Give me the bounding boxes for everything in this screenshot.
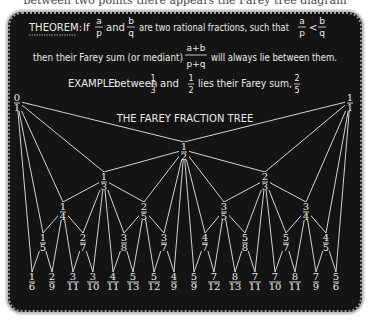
fraction-node: 25 xyxy=(139,201,149,222)
cut-off-caption: between two points there appears the Far… xyxy=(0,0,370,7)
svg-text:1: 1 xyxy=(347,102,353,113)
tree-edge xyxy=(104,180,144,202)
svg-text:9: 9 xyxy=(49,281,55,292)
svg-text:13: 13 xyxy=(127,281,140,292)
theorem-line-2: then their Farey sum (or mediant) a+b p+… xyxy=(33,43,337,69)
fraction-node: 58 xyxy=(240,232,250,253)
svg-text:4: 4 xyxy=(303,211,309,222)
svg-text:7: 7 xyxy=(202,242,208,253)
svg-text:1: 1 xyxy=(188,74,193,83)
svg-text:12: 12 xyxy=(208,281,221,292)
text-rational: are two rational fractions, such that xyxy=(139,22,289,33)
fraction-node: 711 xyxy=(247,271,263,292)
svg-text:1: 1 xyxy=(150,74,155,83)
svg-text:7: 7 xyxy=(80,242,86,253)
fraction-node: 35 xyxy=(219,201,229,222)
theorem-line-1: THEOREM: If a p and b q are two rational… xyxy=(28,16,326,38)
fraction-node: 813 xyxy=(227,271,243,292)
svg-text:5: 5 xyxy=(221,211,227,222)
svg-text:10: 10 xyxy=(269,281,282,292)
fraction-node: 45 xyxy=(321,232,331,253)
chalkboard: THEOREM: If a p and b q are two rational… xyxy=(8,12,362,312)
fraction-two-fifths: 2 5 xyxy=(294,74,300,95)
svg-text:7: 7 xyxy=(283,242,289,253)
example-label: EXAMPLE: xyxy=(68,78,118,89)
svg-text:5: 5 xyxy=(40,242,46,253)
tree-edge xyxy=(104,180,113,272)
fraction-node: 59 xyxy=(189,271,199,292)
mediant-fraction: a+b p+q xyxy=(185,43,207,69)
fraction-node: 29 xyxy=(47,271,57,292)
fraction-node: 311 xyxy=(65,271,81,292)
fraction-node: 47 xyxy=(200,232,210,253)
fraction-node: 15 xyxy=(38,232,48,253)
svg-text:11: 11 xyxy=(107,281,120,292)
fraction-node: 16 xyxy=(27,271,37,292)
tree-edge xyxy=(174,150,184,272)
svg-text:3: 3 xyxy=(150,86,155,95)
fraction-one-half: 1 2 xyxy=(188,74,194,95)
fraction-node: 811 xyxy=(287,271,303,292)
fraction-node: 310 xyxy=(85,271,101,292)
fraction-a-over-p: a p xyxy=(95,16,103,38)
svg-text:13: 13 xyxy=(229,281,242,292)
tree-edge xyxy=(336,101,350,272)
svg-text:<: < xyxy=(309,22,317,33)
svg-text:a: a xyxy=(96,16,102,26)
text-if: If xyxy=(83,22,90,33)
tree-edge xyxy=(17,101,32,272)
svg-text:2: 2 xyxy=(294,74,299,83)
tree-edge xyxy=(265,180,306,202)
tree-edges xyxy=(17,101,350,272)
fraction-node: 14 xyxy=(58,201,68,222)
svg-text:1: 1 xyxy=(14,102,20,113)
farey-diagram: THEOREM: If a p and b q are two rational… xyxy=(8,12,362,312)
fraction-node: 01 xyxy=(12,92,22,113)
tree-edge xyxy=(224,180,265,202)
svg-text:6: 6 xyxy=(29,281,35,292)
svg-text:b: b xyxy=(128,16,134,26)
svg-text:4: 4 xyxy=(60,211,66,222)
svg-text:5: 5 xyxy=(294,86,299,95)
tree-edge xyxy=(63,180,104,202)
fraction-node: 38 xyxy=(119,232,129,253)
tree-edge xyxy=(17,101,43,233)
example-line: EXAMPLE: between 1 3 and 1 2 lies their … xyxy=(68,74,300,95)
fraction-node: 57 xyxy=(281,232,291,253)
svg-text:a: a xyxy=(299,16,305,26)
text-and: and xyxy=(106,22,125,33)
svg-text:q: q xyxy=(319,28,325,38)
fraction-node: 13 xyxy=(99,171,109,192)
svg-text:2: 2 xyxy=(181,151,187,162)
svg-text:3: 3 xyxy=(262,181,268,192)
tree-edge xyxy=(184,150,224,202)
svg-text:8: 8 xyxy=(121,242,127,253)
fraction-node: 512 xyxy=(146,271,162,292)
svg-text:p: p xyxy=(96,28,102,38)
svg-text:8: 8 xyxy=(242,242,248,253)
svg-text:p: p xyxy=(299,28,305,38)
svg-text:11: 11 xyxy=(289,281,302,292)
fraction-node: 12 xyxy=(179,141,189,162)
svg-text:11: 11 xyxy=(67,281,80,292)
svg-text:3: 3 xyxy=(101,181,107,192)
tree-title: THE FAREY FRACTION TREE xyxy=(116,113,254,124)
svg-text:lies their Farey sum,: lies their Farey sum, xyxy=(198,78,292,89)
fraction-node: 411 xyxy=(105,271,121,292)
svg-text:6: 6 xyxy=(333,281,339,292)
svg-text:9: 9 xyxy=(313,281,319,292)
tree-edge xyxy=(17,101,63,202)
fraction-node: 49 xyxy=(169,271,179,292)
svg-text:11: 11 xyxy=(249,281,262,292)
svg-text:10: 10 xyxy=(87,281,100,292)
text-between: will always lie between them. xyxy=(211,52,337,63)
svg-text:b: b xyxy=(319,16,325,26)
fraction-node: 11 xyxy=(345,92,355,113)
inequality-a-p-lt-b-q: a p < b q xyxy=(298,16,326,38)
tree-edge xyxy=(104,150,184,172)
fraction-node: 27 xyxy=(78,232,88,253)
fraction-node: 34 xyxy=(301,201,311,222)
svg-text:p+q: p+q xyxy=(187,59,206,69)
svg-text:2: 2 xyxy=(188,86,193,95)
fraction-node: 79 xyxy=(311,271,321,292)
